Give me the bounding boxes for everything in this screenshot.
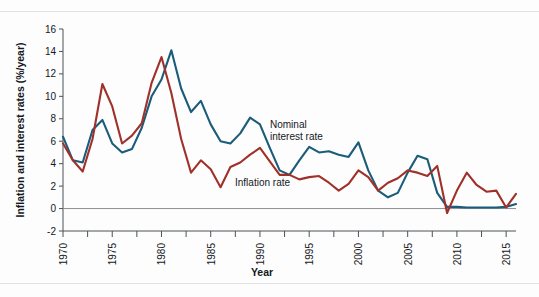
- y-tick-label: 8: [50, 113, 56, 124]
- x-tick-label: 1975: [107, 243, 118, 266]
- x-tick-label: 1970: [58, 243, 69, 266]
- x-axis-label: Year: [251, 266, 273, 278]
- y-tick-label: 4: [50, 158, 56, 169]
- y-tick-label: 12: [45, 68, 57, 79]
- axis-group: [63, 29, 516, 231]
- annotation-inflation-rate: Inflation rate: [235, 177, 290, 188]
- y-tick-label: 10: [45, 91, 57, 102]
- x-axis-ticks: 1970197519801985199019952000200520102015: [58, 231, 512, 265]
- annotation-nominal-interest-rate: Nominal: [270, 119, 307, 130]
- y-tick-label: 16: [45, 24, 57, 35]
- y-tick-label: -2: [47, 226, 56, 237]
- y-axis-label: Inflation and interest rates (%/year): [14, 42, 26, 217]
- x-tick-label: 1980: [156, 243, 167, 266]
- y-tick-label: 6: [50, 136, 56, 147]
- y-tick-label: 2: [50, 181, 56, 192]
- y-axis-ticks: -20246810121416: [45, 24, 63, 237]
- x-tick-label: 2015: [501, 243, 512, 266]
- y-tick-label: 0: [50, 203, 56, 214]
- x-tick-label: 1985: [206, 243, 217, 266]
- line-chart: -20246810121416 197019751980198519901995…: [0, 0, 539, 297]
- annotation-nominal-interest-rate: interest rate: [270, 131, 323, 142]
- x-tick-label: 2010: [452, 243, 463, 266]
- x-tick-label: 2000: [353, 243, 364, 266]
- x-tick-label: 2005: [403, 243, 414, 266]
- axis-spines: [63, 29, 516, 231]
- y-tick-label: 14: [45, 46, 57, 57]
- figure-container: -20246810121416 197019751980198519901995…: [0, 0, 539, 297]
- x-tick-label: 1995: [304, 243, 315, 266]
- x-tick-label: 1990: [255, 243, 266, 266]
